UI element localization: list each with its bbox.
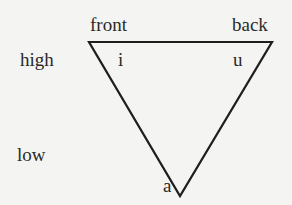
low-label: low	[17, 145, 46, 164]
triangle-outline	[89, 42, 272, 196]
vowel-u-label: u	[233, 50, 243, 69]
vowel-i-label: i	[118, 50, 123, 69]
front-label: front	[90, 15, 127, 34]
vowel-a-label: a	[163, 176, 171, 195]
high-label: high	[20, 50, 54, 69]
back-label: back	[232, 15, 268, 34]
